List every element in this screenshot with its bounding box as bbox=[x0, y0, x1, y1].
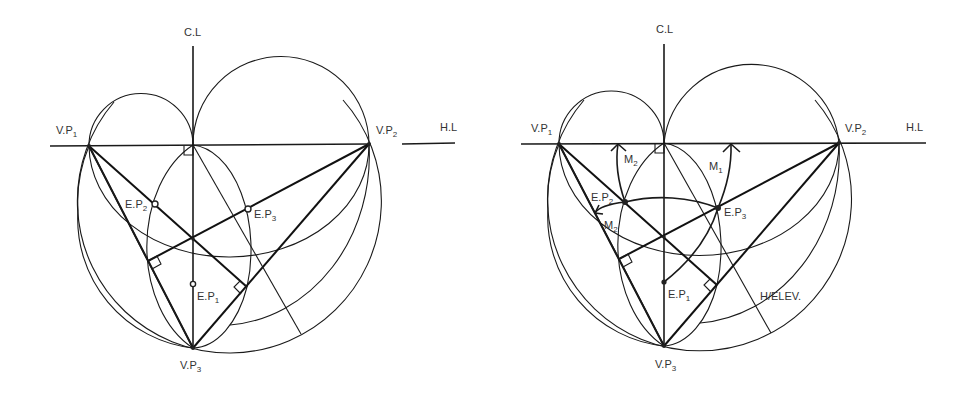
label-vp2: V.P2 bbox=[376, 124, 398, 139]
altitude-from-vp2 bbox=[619, 143, 839, 259]
altitude-from-vp2 bbox=[148, 144, 369, 261]
ep2-point bbox=[622, 199, 628, 205]
label-vp1: V.P1 bbox=[56, 124, 78, 139]
semicircle-cl-vp2 bbox=[193, 56, 369, 145]
label-ep1: E.P1 bbox=[668, 288, 691, 303]
label-m1: M1 bbox=[709, 160, 723, 175]
ep1-point bbox=[190, 281, 195, 286]
label-ep2: E.P2 bbox=[125, 198, 148, 213]
vp3-point bbox=[191, 346, 195, 350]
label-vp2: V.P2 bbox=[845, 122, 867, 137]
semicircle-cl-vp2 bbox=[664, 64, 839, 143]
label-m2-upper: M2 bbox=[624, 153, 638, 168]
m1-arc bbox=[718, 144, 731, 208]
label-horizon-line: H.L bbox=[906, 121, 923, 133]
altitude-from-vp1 bbox=[89, 146, 247, 287]
label-ep1: E.P1 bbox=[197, 290, 220, 305]
label-ep3: E.P3 bbox=[254, 208, 277, 223]
segment-foot-vp3-left bbox=[148, 261, 193, 348]
semicircle-vp1-cl bbox=[89, 94, 193, 146]
label-center-line: C.L bbox=[656, 23, 673, 35]
orthocenter-point bbox=[662, 235, 666, 239]
outer-construction-arc bbox=[547, 100, 851, 351]
altitude-from-vp1 bbox=[559, 144, 717, 285]
ep2-point bbox=[152, 201, 158, 207]
ep1-point bbox=[661, 279, 666, 284]
outer-construction-arc bbox=[77, 100, 381, 353]
label-h-elevation: H/ELEV. bbox=[760, 290, 801, 302]
vp1-point bbox=[87, 144, 91, 148]
label-ep3: E.P3 bbox=[724, 206, 747, 221]
label-vp1: V.P1 bbox=[531, 122, 553, 137]
label-center-line: C.L bbox=[184, 26, 201, 38]
diagonal-line bbox=[193, 145, 301, 334]
vp2-point bbox=[837, 141, 841, 145]
edge-vp2-vp3 bbox=[664, 143, 839, 346]
label-vp3: V.P3 bbox=[655, 358, 677, 373]
vp2-point bbox=[367, 142, 371, 146]
segment-foot-vp3-left bbox=[619, 259, 664, 346]
horizon-line bbox=[521, 143, 926, 144]
edge-vp2-vp3 bbox=[193, 144, 369, 348]
label-m2-lower: M2 bbox=[604, 219, 618, 234]
label-vp3: V.P3 bbox=[180, 359, 202, 374]
figure-right: C.L H.L V.P1 V.P2 V.P3 E.P2 E.P3 E.P1 M2… bbox=[521, 23, 926, 373]
three-point-perspective-diagram: C.L H.L V.P1 V.P2 V.P3 E.P2 E.P3 E.P1 bbox=[0, 0, 972, 393]
ep3-point bbox=[715, 205, 721, 211]
circle-diameter-cl-vp3-left bbox=[618, 143, 664, 346]
label-horizon-line: H.L bbox=[440, 121, 457, 133]
ep3-point bbox=[245, 206, 251, 212]
horizon-line bbox=[50, 144, 369, 146]
vp1-point bbox=[557, 142, 561, 146]
label-ep2: E.P2 bbox=[591, 191, 614, 206]
m2-upper-arrow-icon bbox=[611, 144, 626, 151]
semicircle-vp1-cl bbox=[559, 91, 664, 144]
arc-ep2-ep3 bbox=[625, 198, 718, 208]
vp3-point bbox=[662, 344, 666, 348]
figure-left: C.L H.L V.P1 V.P2 V.P3 E.P2 E.P3 E.P1 bbox=[50, 26, 457, 374]
horizon-line-extension bbox=[402, 143, 455, 144]
orthocenter-point bbox=[191, 237, 195, 241]
